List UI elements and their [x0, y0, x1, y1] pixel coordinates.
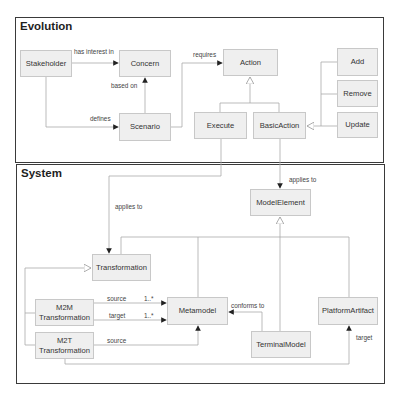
update-node: Update	[337, 112, 378, 138]
m2m-target-multiplicity: 1..*	[144, 312, 154, 319]
m2m-label-line2: Transformation	[39, 313, 90, 323]
system-title: System	[21, 167, 62, 179]
update-label: Update	[345, 120, 370, 130]
platform-artifact-label: PlatformArtifact	[322, 306, 374, 316]
transformation-label: Transformation	[96, 263, 147, 273]
applies-to-left-label: applies to	[115, 203, 142, 210]
transformation-node: Transformation	[92, 254, 151, 281]
terminal-model-node: TerminalModel	[251, 331, 311, 358]
m2t-target-label: target	[356, 334, 372, 341]
m2m-target-label: target	[109, 312, 125, 319]
m2m-label-line1: M2M	[56, 303, 73, 313]
stakeholder-node: Stakeholder	[20, 50, 72, 77]
stakeholder-label: Stakeholder	[26, 59, 67, 69]
basic-action-label: BasicAction	[260, 121, 300, 131]
metamodel-node: Metamodel	[167, 297, 228, 325]
metamodel-label: Metamodel	[179, 306, 217, 316]
evolution-frame: Evolution	[15, 17, 384, 163]
m2t-label-line2: Transformation	[39, 346, 90, 356]
m2t-label-line1: M2T	[57, 336, 72, 346]
action-label: Action	[240, 58, 261, 68]
model-element-label: ModelElement	[256, 198, 305, 208]
m2t-source-label: source	[107, 337, 126, 344]
platform-artifact-node: PlatformArtifact	[318, 297, 378, 325]
m2m-source-label: source	[107, 295, 126, 302]
basic-action-node: BasicAction	[253, 112, 306, 139]
requires-label: requires	[193, 51, 216, 58]
model-element-node: ModelElement	[250, 189, 311, 216]
remove-label: Remove	[343, 89, 371, 99]
terminal-model-label: TerminalModel	[256, 340, 305, 350]
execute-label: Execute	[207, 121, 234, 131]
defines-label: defines	[90, 115, 111, 122]
concern-node: Concern	[119, 50, 171, 77]
add-label: Add	[351, 57, 365, 67]
scenario-label: Scenario	[130, 122, 160, 132]
based-on-label: based on	[111, 82, 137, 89]
m2m-source-multiplicity: 1..*	[144, 295, 154, 302]
scenario-node: Scenario	[119, 113, 171, 141]
action-node: Action	[223, 49, 278, 76]
has-interest-in-label: has interest in	[74, 48, 114, 55]
concern-label: Concern	[131, 59, 160, 69]
evolution-title: Evolution	[20, 20, 72, 32]
execute-node: Execute	[194, 112, 247, 139]
add-node: Add	[337, 48, 378, 76]
m2t-transformation-node: M2T Transformation	[35, 332, 94, 359]
conforms-to-label: conforms to	[231, 302, 264, 309]
remove-node: Remove	[337, 80, 378, 107]
m2m-transformation-node: M2M Transformation	[35, 299, 94, 326]
applies-to-right-label: applies to	[289, 176, 316, 183]
